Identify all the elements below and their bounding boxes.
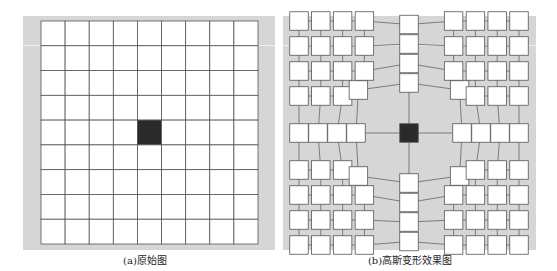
grid-cell: [400, 213, 419, 232]
deformed-grid-drawing: [0, 0, 557, 271]
grid-cell: [333, 62, 352, 81]
grid-cell: [312, 186, 331, 205]
grid-cell: [312, 62, 331, 81]
grid-cell: [466, 87, 485, 106]
grid-cell: [488, 12, 507, 31]
grid-cell: [488, 211, 507, 230]
grid-cell: [290, 161, 309, 180]
grid-cell: [510, 236, 529, 255]
grid-cell: [328, 124, 347, 143]
grid-cell: [349, 81, 368, 100]
grid-cell: [466, 236, 485, 255]
grid-cell: [466, 211, 485, 230]
grid-cell: [290, 211, 309, 230]
grid-cell: [312, 87, 331, 106]
grid-cell: [510, 62, 529, 81]
grid-cell: [355, 211, 374, 230]
grid-cell: [488, 87, 507, 106]
grid-cell: [400, 15, 419, 34]
grid-cell: [355, 12, 374, 31]
grid-cell: [444, 211, 463, 230]
grid-cell: [333, 211, 352, 230]
grid-cell: [444, 62, 463, 81]
grid-cell: [510, 186, 529, 205]
grid-cell: [333, 186, 352, 205]
grid-cell: [290, 12, 309, 31]
grid-cell: [333, 12, 352, 31]
grid-cell: [466, 161, 485, 180]
grid-cell: [290, 37, 309, 56]
grid-cell: [488, 161, 507, 180]
grid-cell: [349, 167, 368, 186]
grid-cell: [491, 124, 510, 143]
grid-cell: [355, 62, 374, 81]
grid-cell: [510, 161, 529, 180]
grid-cell: [312, 12, 331, 31]
grid-cell: [466, 12, 485, 31]
grid-cell: [355, 37, 374, 56]
grid-cell: [347, 124, 366, 143]
grid-cell: [488, 186, 507, 205]
grid-cell: [444, 12, 463, 31]
grid-cell: [444, 186, 463, 205]
grid-cell: [333, 236, 352, 255]
grid-cell: [290, 236, 309, 255]
center-cell: [400, 124, 419, 143]
grid-cell: [400, 174, 419, 193]
caption-original: (a)原始图: [123, 252, 167, 267]
grid-cell: [312, 211, 331, 230]
grid-cell: [510, 211, 529, 230]
grid-cell: [488, 236, 507, 255]
grid-cell: [333, 37, 352, 56]
grid-cell: [312, 37, 331, 56]
grid-cell: [400, 35, 419, 54]
grid-cell: [400, 74, 419, 93]
grid-cell: [510, 124, 529, 143]
grid-cell: [290, 87, 309, 106]
grid-cell: [510, 87, 529, 106]
grid-cell: [510, 37, 529, 56]
grid-cell: [309, 124, 328, 143]
grid-cell: [312, 236, 331, 255]
grid-cell: [290, 62, 309, 81]
grid-cell: [290, 124, 309, 143]
grid-cell: [472, 124, 491, 143]
grid-cell: [488, 37, 507, 56]
grid-cell: [466, 186, 485, 205]
grid-cell: [444, 37, 463, 56]
grid-cell: [466, 37, 485, 56]
grid-cell: [290, 186, 309, 205]
grid-cell: [400, 54, 419, 73]
grid-cell: [453, 124, 472, 143]
grid-cell: [488, 62, 507, 81]
caption-deformed: (b)高斯变形效果图: [368, 252, 452, 267]
grid-cell: [400, 193, 419, 212]
grid-cell: [466, 62, 485, 81]
grid-cell: [312, 161, 331, 180]
grid-cell: [355, 186, 374, 205]
grid-cell: [400, 232, 419, 251]
grid-cell: [510, 12, 529, 31]
